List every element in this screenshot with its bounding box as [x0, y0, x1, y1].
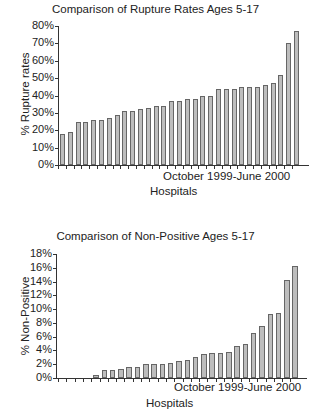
x-tick-mark	[224, 379, 225, 382]
y-tick-mark	[53, 337, 56, 338]
data-bar	[160, 364, 166, 378]
x-tick-mark	[207, 379, 208, 382]
data-bar	[276, 313, 282, 378]
x-tick-mark	[91, 379, 92, 382]
y-tick-label: 8%	[16, 316, 52, 328]
x-tick-mark	[282, 379, 283, 382]
y-tick-label: 16%	[16, 261, 52, 273]
data-bar	[135, 367, 141, 378]
x-tick-mark	[66, 379, 67, 382]
y-tick-mark	[53, 254, 56, 255]
x-axis-period: October 1999-June 2000	[174, 381, 301, 393]
y-tick-label: 6%	[16, 330, 52, 342]
y-tick-mark	[53, 378, 56, 379]
data-bar	[176, 361, 182, 378]
data-bar	[292, 266, 298, 378]
x-tick-mark	[249, 379, 250, 382]
y-tick-mark	[53, 364, 56, 365]
y-tick-mark	[53, 268, 56, 269]
x-tick-mark	[266, 379, 267, 382]
x-tick-mark	[124, 379, 125, 382]
y-tick-label: 0%	[16, 371, 52, 383]
x-tick-mark	[100, 379, 101, 382]
data-bar	[226, 352, 232, 378]
x-tick-mark	[75, 379, 76, 382]
y-tick-label: 4%	[16, 343, 52, 355]
data-bar	[102, 370, 108, 378]
data-bar	[126, 367, 132, 378]
x-tick-mark	[58, 379, 59, 382]
data-bar	[151, 364, 157, 378]
data-bar	[201, 354, 207, 378]
data-bar	[268, 314, 274, 378]
y-tick-label: 14%	[16, 275, 52, 287]
y-tick-label: 2%	[16, 357, 52, 369]
data-bar	[251, 333, 257, 378]
data-bar	[234, 346, 240, 378]
y-tick-mark	[53, 282, 56, 283]
data-bar	[143, 364, 149, 378]
y-tick-mark	[53, 323, 56, 324]
x-tick-mark	[149, 379, 150, 382]
x-tick-mark	[166, 379, 167, 382]
x-tick-mark	[174, 379, 175, 382]
data-bar	[218, 353, 224, 378]
y-tick-mark	[53, 309, 56, 310]
y-tick-label: 12%	[16, 288, 52, 300]
x-tick-mark	[257, 379, 258, 382]
x-tick-mark	[141, 379, 142, 382]
y-tick-label: 18%	[16, 247, 52, 259]
data-bar	[259, 326, 265, 378]
x-tick-mark	[290, 379, 291, 382]
x-tick-mark	[183, 379, 184, 382]
x-tick-mark	[232, 379, 233, 382]
data-bar	[93, 375, 99, 378]
x-tick-mark	[133, 379, 134, 382]
x-tick-mark	[116, 379, 117, 382]
data-bar	[284, 280, 290, 378]
data-bar	[168, 363, 174, 378]
data-bar	[185, 360, 191, 378]
x-tick-mark	[199, 379, 200, 382]
chart-title: Comparison of Non-Positive Ages 5-17	[0, 230, 311, 242]
data-bar	[118, 369, 124, 378]
non-positive-chart: Comparison of Non-Positive Ages 5-17 % N…	[0, 0, 311, 418]
x-tick-mark	[83, 379, 84, 382]
x-tick-mark	[191, 379, 192, 382]
x-axis-label: Hospitals	[146, 397, 193, 409]
y-tick-label: 10%	[16, 302, 52, 314]
y-tick-mark	[53, 295, 56, 296]
x-tick-mark	[158, 379, 159, 382]
data-bar	[110, 370, 116, 378]
data-bar	[193, 357, 199, 378]
data-bar	[243, 344, 249, 378]
data-bar	[209, 353, 215, 378]
y-tick-mark	[53, 350, 56, 351]
x-tick-mark	[216, 379, 217, 382]
x-tick-mark	[108, 379, 109, 382]
x-tick-mark	[241, 379, 242, 382]
x-tick-mark	[274, 379, 275, 382]
